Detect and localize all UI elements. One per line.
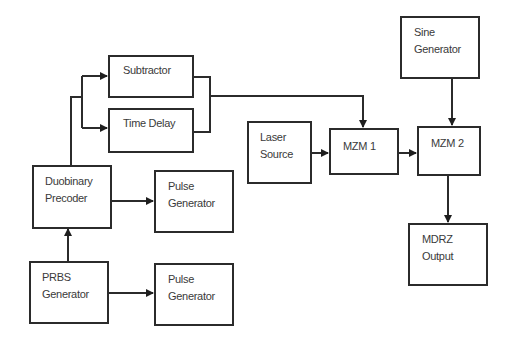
pulse-gen-1-label-1: Pulse <box>168 179 194 193</box>
pulse-gen-1-label-2: Generator <box>168 196 215 210</box>
prbs-generator-block: PRBS Generator <box>29 261 109 324</box>
laser-source-block: Laser Source <box>247 121 312 184</box>
mdrz-label-1: MDRZ <box>422 232 453 246</box>
pulse-generator-bottom-block: Pulse Generator <box>154 263 234 326</box>
time-delay-block: Time Delay <box>108 108 194 153</box>
mzm2-label: MZM 2 <box>431 136 464 150</box>
prbs-label-1: PRBS <box>42 270 71 284</box>
pulse-generator-top-block: Pulse Generator <box>154 170 234 233</box>
sine-generator-block: Sine Generator <box>400 16 480 79</box>
prbs-label-2: Generator <box>42 287 89 301</box>
duobinary-precoder-block: Duobinary Precoder <box>32 165 112 229</box>
sine-label-1: Sine <box>414 25 435 39</box>
mdrz-output-block: MDRZ Output <box>408 223 488 286</box>
laser-label-1: Laser <box>260 130 286 144</box>
subtractor-block: Subtractor <box>108 55 194 98</box>
pulse-gen-2-label-1: Pulse <box>168 272 194 286</box>
sine-label-2: Generator <box>414 42 461 56</box>
pulse-gen-2-label-2: Generator <box>168 289 215 303</box>
duobinary-label-1: Duobinary <box>45 174 92 188</box>
mdrz-label-2: Output <box>422 249 453 263</box>
mzm1-label: MZM 1 <box>343 139 376 153</box>
time-delay-label: Time Delay <box>123 116 175 130</box>
duobinary-label-2: Precoder <box>45 191 87 205</box>
mzm1-block: MZM 1 <box>329 128 399 175</box>
mzm2-block: MZM 2 <box>417 126 481 176</box>
laser-label-2: Source <box>260 147 293 161</box>
subtractor-label: Subtractor <box>123 63 171 77</box>
